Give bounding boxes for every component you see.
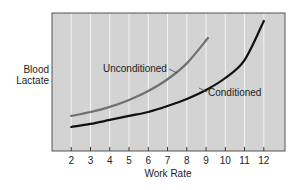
plot-area — [52, 13, 285, 151]
x-tick-label: 7 — [165, 155, 171, 166]
x-tick-label: 5 — [126, 155, 132, 166]
x-tick-label: 10 — [220, 155, 232, 166]
x-axis-label: Work Rate — [144, 168, 191, 179]
x-tick-label: 12 — [258, 155, 270, 166]
x-tick-label: 9 — [203, 155, 209, 166]
x-tick-label: 2 — [68, 155, 74, 166]
x-tick-label: 6 — [145, 155, 151, 166]
conditioned-annotation: Conditioned — [208, 87, 261, 98]
chart: 23456789101112 Blood Lactate Work Rate U… — [0, 0, 300, 190]
x-tick-label: 4 — [107, 155, 113, 166]
unconditioned-annotation: Unconditioned — [103, 63, 167, 74]
x-tick-label: 8 — [184, 155, 190, 166]
y-axis-label-line1: Blood — [23, 64, 49, 75]
y-axis-label-line2: Lactate — [16, 75, 49, 86]
x-tick-label: 3 — [88, 155, 94, 166]
x-tick-label: 11 — [239, 155, 250, 166]
